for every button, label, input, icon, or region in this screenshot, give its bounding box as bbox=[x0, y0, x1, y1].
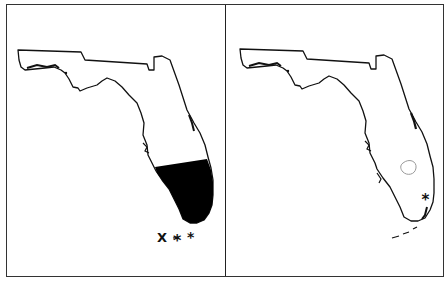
florida-map-right bbox=[227, 5, 443, 276]
marker-star: * bbox=[422, 191, 430, 209]
marker-star-1: * bbox=[173, 231, 181, 250]
shaded-region bbox=[155, 159, 213, 223]
marker-x: X bbox=[157, 230, 167, 245]
figure-frame: X * * * bbox=[6, 4, 444, 277]
lake-okeechobee bbox=[400, 161, 415, 175]
map-panel-left: X * * bbox=[7, 5, 226, 276]
map-panel-right: * bbox=[227, 5, 444, 276]
marker-star-2: * bbox=[187, 229, 194, 245]
florida-outline bbox=[240, 49, 434, 221]
